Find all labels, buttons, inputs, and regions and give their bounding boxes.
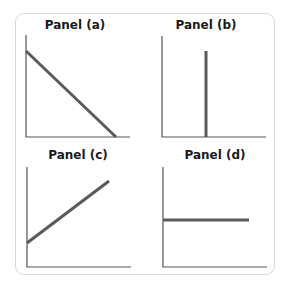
panel-d-title: Panel (d)	[184, 148, 245, 162]
panels-figure: Panel (a) Panel (b) Panel (c) Panel (d)	[0, 0, 288, 291]
panel-d: Panel (d)	[163, 148, 267, 267]
panel-b: Panel (b)	[162, 18, 266, 137]
panel-c-axes	[27, 167, 131, 267]
panel-c: Panel (c)	[27, 148, 131, 267]
panel-b-axes	[162, 36, 266, 137]
panel-a-title: Panel (a)	[45, 18, 106, 32]
panel-b-title: Panel (b)	[175, 18, 236, 32]
panel-d-axes	[163, 167, 267, 267]
panel-a-line	[26, 51, 116, 137]
panel-c-title: Panel (c)	[48, 148, 108, 162]
panel-a: Panel (a)	[26, 18, 130, 137]
panel-a-axes	[26, 35, 130, 137]
panel-c-line	[27, 181, 109, 243]
